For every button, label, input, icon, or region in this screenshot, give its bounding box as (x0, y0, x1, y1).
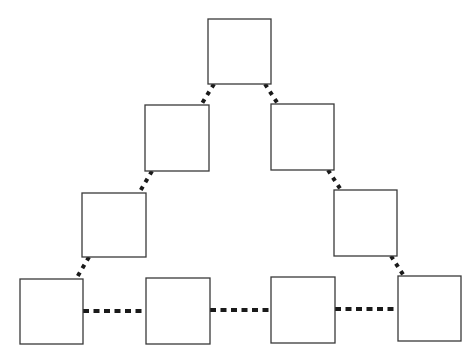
box-top (208, 19, 271, 84)
box-bottom-2 (146, 278, 210, 344)
box-bottom-4 (398, 276, 461, 341)
connector-top-to-row2-right (265, 84, 278, 104)
connector-row2-right-to-row3-right (328, 170, 341, 190)
connector-row3-left-to-bottom-1 (76, 257, 89, 279)
box-layer (20, 19, 461, 344)
box-triangle-diagram (0, 0, 473, 360)
box-row3-right (334, 190, 397, 256)
box-bottom-3 (271, 277, 335, 343)
box-row2-right (271, 104, 334, 170)
connector-row2-left-to-row3-left (139, 171, 152, 193)
box-bottom-1 (20, 279, 83, 344)
connector-row3-right-to-bottom-4 (391, 256, 404, 276)
box-row2-left (145, 105, 209, 171)
box-row3-left (82, 193, 146, 257)
connector-top-to-row2-left (201, 84, 214, 105)
